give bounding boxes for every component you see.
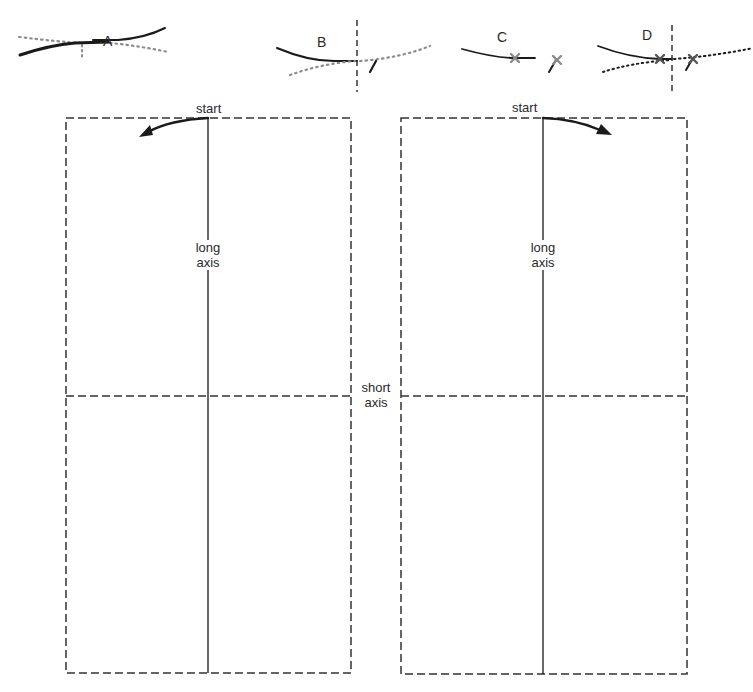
left-long-axis-label-line2: axis (188, 255, 228, 270)
panel-d-sketch (598, 25, 753, 92)
diagram-canvas (0, 0, 753, 692)
panel-label-b: B (317, 34, 326, 50)
cross-mark-icon (553, 56, 561, 64)
arrowhead-right-icon (596, 124, 612, 135)
right-long-axis-label: long axis (522, 240, 564, 270)
panel-b-sketch (277, 20, 430, 92)
left-sheet (66, 118, 351, 673)
left-long-axis-label-line1: long (188, 240, 228, 255)
right-start-arrow (543, 118, 600, 130)
right-long-axis-label-line2: axis (522, 255, 564, 270)
panel-a-sketch (19, 28, 168, 60)
panel-c-sketch (462, 49, 561, 72)
right-start-label: start (512, 100, 564, 115)
left-long-axis-label: long axis (188, 240, 228, 270)
left-start-label: start (196, 101, 248, 116)
left-start-arrow (148, 118, 208, 132)
panel-label-d: D (642, 27, 652, 43)
short-axis-label: short axis (354, 380, 398, 410)
right-long-axis-label-line1: long (522, 240, 564, 255)
short-axis-label-line2: axis (354, 395, 398, 410)
arrowhead-left-icon (139, 125, 153, 137)
right-sheet (401, 118, 687, 674)
panel-label-c: C (497, 29, 507, 45)
short-axis-label-line1: short (354, 380, 398, 395)
panel-label-a: A (103, 33, 112, 49)
cross-mark-icon (689, 55, 697, 63)
